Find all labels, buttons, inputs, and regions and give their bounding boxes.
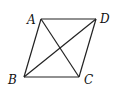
edge-dc [79,19,96,77]
vertex-label-b: B [7,73,17,87]
diagonals [24,19,96,77]
edge-ba [24,19,41,77]
vertex-label-c: C [84,73,93,87]
parallelogram-diagram: A D B C [0,0,116,89]
diagonal-bd [24,19,96,77]
vertex-label-a: A [26,13,36,27]
vertex-label-d: D [99,12,110,26]
